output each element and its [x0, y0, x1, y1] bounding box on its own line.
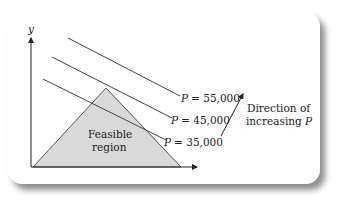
iso-line-55000: [68, 38, 180, 96]
iso-label-45000: P= 45,000: [170, 114, 230, 126]
lp-diagram: y P= 55,000 P= 45,000 P= 35,000 Feasible…: [0, 0, 337, 201]
direction-label-line2: increasing P: [246, 115, 313, 127]
y-axis-label: y: [27, 23, 35, 35]
iso-label-35000: P= 35,000: [163, 136, 223, 148]
region-label-line2: region: [92, 141, 127, 153]
iso-label-55000: P= 55,000: [180, 92, 240, 104]
direction-label-line1: Direction of: [247, 102, 311, 114]
region-label-line1: Feasible: [88, 128, 132, 140]
